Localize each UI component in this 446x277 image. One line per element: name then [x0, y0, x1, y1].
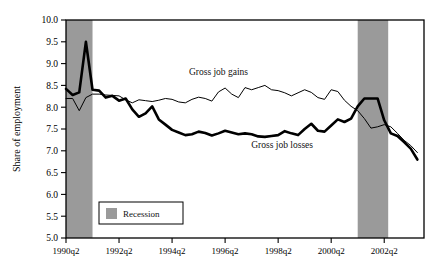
chart-canvas: 10.09.59.08.58.07.57.06.56.05.55.0 1990q… [0, 0, 446, 277]
x-tick-label: 1994q2 [159, 246, 186, 256]
y-axis-title: Share of employment [11, 86, 22, 172]
y-tick-label: 8.5 [46, 81, 58, 91]
x-tick-label: 2000q2 [318, 246, 345, 256]
x-tick-label: 2002q2 [371, 246, 398, 256]
x-tick-label: 1996q2 [212, 246, 239, 256]
y-axis-ticks: 10.09.59.08.58.07.57.06.56.05.55.0 [41, 15, 66, 243]
x-tick-label: 1992q2 [106, 246, 133, 256]
y-tick-label: 6.0 [46, 190, 58, 200]
y-tick-label: 8.0 [46, 103, 58, 113]
y-tick-label: 10.0 [41, 15, 58, 25]
gross-job-flows-chart: 10.09.59.08.58.07.57.06.56.05.55.0 1990q… [0, 0, 446, 277]
y-tick-label: 9.5 [46, 37, 58, 47]
y-tick-label: 9.0 [46, 59, 58, 69]
x-tick-label: 1998q2 [265, 246, 292, 256]
x-tick-label: 1990q2 [53, 246, 80, 256]
y-axis-title-text: Share of employment [11, 86, 22, 172]
y-tick-label: 7.5 [46, 124, 58, 134]
x-axis-ticks: 1990q21992q21994q21996q21998q22000q22002… [53, 238, 398, 256]
y-tick-label: 6.5 [46, 168, 58, 178]
series-annotation: Gross job losses [251, 140, 313, 150]
recession-band [358, 20, 388, 238]
y-tick-label: 5.5 [46, 212, 58, 222]
y-tick-label: 5.0 [46, 233, 58, 243]
legend-label: Recession [123, 209, 160, 219]
chart-legend: Recession [99, 202, 183, 224]
legend-swatch [106, 208, 117, 219]
series-annotation: Gross job gains [189, 67, 248, 77]
y-tick-label: 7.0 [46, 146, 58, 156]
